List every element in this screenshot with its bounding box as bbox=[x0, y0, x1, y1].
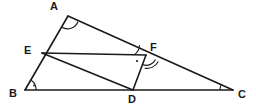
segment-EF bbox=[42, 53, 146, 55]
vertex-label-C: C bbox=[238, 89, 246, 100]
vertex-label-B: B bbox=[9, 88, 17, 99]
segment-FD bbox=[133, 55, 146, 90]
vertex-label-A: A bbox=[50, 1, 58, 12]
right-angle-dot-near-F bbox=[136, 60, 138, 62]
segment-AC bbox=[68, 16, 233, 90]
interior-segments bbox=[42, 53, 146, 90]
vertex-label-E: E bbox=[24, 45, 31, 56]
segment-ED bbox=[42, 53, 133, 90]
geometry-figure: A B C D E F bbox=[0, 0, 256, 110]
vertex-label-D: D bbox=[128, 94, 136, 105]
point-marks bbox=[136, 60, 138, 62]
angle-at-B-dot bbox=[33, 85, 35, 87]
vertex-label-F: F bbox=[150, 42, 157, 53]
